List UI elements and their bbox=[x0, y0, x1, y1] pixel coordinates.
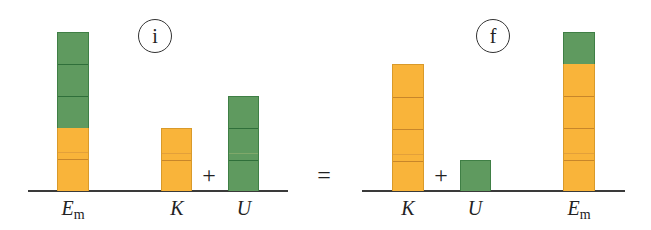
unit-divider bbox=[393, 161, 423, 162]
initial-mechanical-energy-bar bbox=[57, 32, 89, 191]
label-subscript: m bbox=[74, 207, 85, 222]
potential-segment bbox=[228, 96, 259, 191]
unit-divider bbox=[393, 154, 423, 155]
unit-divider bbox=[564, 160, 594, 161]
final-u-label: U bbox=[468, 197, 482, 220]
unit-divider bbox=[229, 153, 258, 154]
kinetic-segment bbox=[161, 128, 192, 191]
potential-segment bbox=[563, 32, 595, 64]
final-mechanical-energy-bar bbox=[563, 32, 595, 191]
final-state-badge: f bbox=[476, 19, 510, 53]
potential-segment bbox=[460, 160, 491, 191]
potential-segment bbox=[57, 32, 89, 128]
initial-kinetic-energy-bar bbox=[161, 128, 192, 191]
energy-bar-diagram: i + bbox=[0, 0, 651, 230]
initial-u-label: U bbox=[237, 197, 251, 220]
plus-sign: + bbox=[434, 163, 448, 187]
kinetic-segment bbox=[57, 128, 89, 191]
label-main: E bbox=[567, 197, 579, 219]
kinetic-segment bbox=[563, 64, 595, 191]
unit-divider bbox=[393, 129, 423, 130]
label-main: E bbox=[61, 197, 73, 219]
initial-em-label: Em bbox=[61, 197, 84, 223]
unit-divider bbox=[564, 128, 594, 129]
unit-divider bbox=[229, 160, 258, 161]
final-potential-energy-bar bbox=[460, 160, 491, 191]
plus-sign: + bbox=[202, 163, 216, 187]
unit-divider bbox=[162, 160, 191, 161]
unit-divider bbox=[564, 153, 594, 154]
unit-divider bbox=[58, 159, 88, 160]
unit-divider bbox=[564, 96, 594, 97]
final-em-label: Em bbox=[567, 197, 590, 223]
final-kinetic-energy-bar bbox=[392, 64, 424, 191]
label-subscript: m bbox=[580, 207, 591, 222]
badge-text: i bbox=[152, 25, 158, 48]
unit-divider bbox=[393, 97, 423, 98]
unit-divider bbox=[58, 64, 88, 65]
unit-divider bbox=[58, 96, 88, 97]
initial-potential-energy-bar bbox=[228, 96, 259, 191]
equals-sign: = bbox=[317, 163, 331, 187]
kinetic-segment bbox=[392, 64, 424, 191]
badge-text: f bbox=[490, 25, 497, 48]
initial-k-label: K bbox=[170, 197, 183, 220]
initial-state-badge: i bbox=[138, 19, 172, 53]
unit-divider bbox=[162, 153, 191, 154]
unit-divider bbox=[58, 152, 88, 153]
unit-divider bbox=[229, 128, 258, 129]
final-k-label: K bbox=[401, 197, 414, 220]
